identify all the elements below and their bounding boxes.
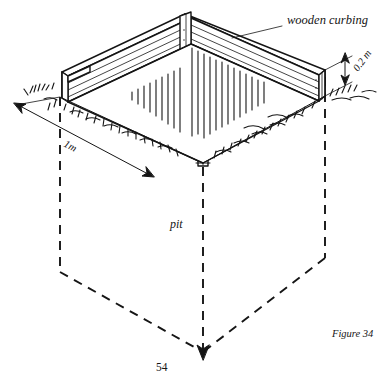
page-number: 54 [156,361,168,373]
figure-illustration: wooden curbing 0.2 m 1m pit Figure 34 54 [0,0,391,379]
pit-curbing-drawing: wooden curbing 0.2 m 1m pit Figure 34 54 [0,0,391,379]
leader-line-icon [232,26,282,38]
label-wooden-curbing: wooden curbing [287,13,368,27]
figure-caption: Figure 34 [331,328,374,339]
label-depth-dimension: 0.2 m [351,47,374,73]
label-pit: pit [169,217,183,231]
label-width-dimension: 1m [62,138,79,154]
